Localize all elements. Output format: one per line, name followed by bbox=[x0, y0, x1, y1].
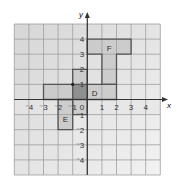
y-tick-label: 4 bbox=[80, 35, 85, 44]
y-tick-label: ⁻4 bbox=[76, 156, 85, 165]
point-marker bbox=[71, 83, 74, 86]
x-tick-label: 3 bbox=[129, 103, 134, 112]
origin-label: 0 bbox=[80, 103, 85, 112]
x-tick-label: ⁻4 bbox=[25, 103, 34, 112]
y-tick-label: ⁻3 bbox=[76, 141, 85, 150]
coordinate-plane: ⁻4⁻3⁻2⁻112344321⁻1⁻2⁻3⁻40 FDE x y bbox=[0, 0, 181, 187]
y-axis-label: y bbox=[78, 10, 84, 19]
y-tick-label: 1 bbox=[80, 80, 85, 89]
shape-label-f: F bbox=[107, 44, 112, 53]
x-tick-label: 4 bbox=[143, 103, 148, 112]
y-tick-label: 3 bbox=[80, 50, 85, 59]
shape-label-e: E bbox=[63, 115, 68, 124]
y-tick-label: 2 bbox=[80, 65, 85, 74]
shape-label-d: D bbox=[92, 89, 98, 98]
x-tick-label: 1 bbox=[100, 103, 105, 112]
y-tick-label: ⁻2 bbox=[76, 126, 85, 135]
y-tick-label: ⁻1 bbox=[76, 111, 85, 120]
y-axis-arrow-icon bbox=[85, 12, 90, 18]
x-tick-label: 2 bbox=[114, 103, 119, 112]
x-axis-label: x bbox=[166, 101, 172, 110]
x-tick-label: ⁻3 bbox=[39, 103, 48, 112]
coordinate-grid-figure: ⁻4⁻3⁻2⁻112344321⁻1⁻2⁻3⁻40 FDE x y bbox=[0, 0, 181, 187]
x-tick-label: ⁻2 bbox=[54, 103, 63, 112]
